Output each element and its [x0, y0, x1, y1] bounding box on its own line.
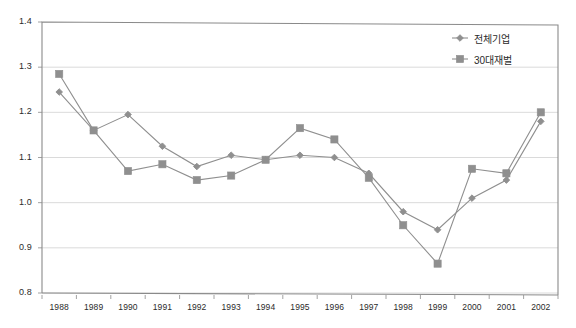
y-axis-tick-label: 1.0 [6, 197, 32, 207]
legend-label-1: 전체기업 [474, 31, 510, 46]
data-point [434, 260, 441, 267]
data-point [56, 70, 63, 77]
data-point [538, 118, 545, 125]
y-axis-tick-label: 1.3 [6, 61, 32, 71]
data-point [296, 125, 303, 132]
data-point [537, 109, 544, 116]
data-point [159, 161, 166, 168]
x-axis-tick-label: 2002 [521, 302, 561, 312]
y-axis-tick-label: 1.2 [6, 106, 32, 116]
data-point [262, 156, 269, 163]
data-point [365, 174, 372, 181]
data-point [503, 170, 510, 177]
data-point [400, 222, 407, 229]
data-point [331, 154, 338, 161]
legend-label-2: 30대재벌 [474, 52, 512, 67]
data-point [503, 177, 510, 184]
data-point [228, 172, 235, 179]
y-axis-tick-label: 0.9 [6, 242, 32, 252]
y-axis-tick-label: 1.4 [6, 16, 32, 26]
data-point [194, 163, 201, 170]
data-point [90, 127, 97, 134]
data-point [331, 136, 338, 143]
chart-canvas [0, 0, 576, 328]
data-point [193, 176, 200, 183]
legend-marker-2 [456, 55, 463, 62]
legend-marker-1 [457, 35, 464, 42]
data-point [124, 167, 131, 174]
line-chart: 1.41.31.21.11.00.90.8 198819891990199119… [0, 0, 576, 328]
y-axis-tick-label: 0.8 [6, 287, 32, 297]
data-point [468, 165, 475, 172]
y-axis-tick-label: 1.1 [6, 152, 32, 162]
